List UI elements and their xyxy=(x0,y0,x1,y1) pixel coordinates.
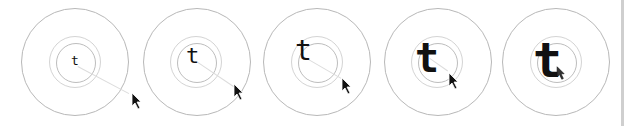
cursor-arrow-icon xyxy=(233,83,245,101)
magnification-sequence: t t t t t xyxy=(0,0,627,126)
edge-divider-bar xyxy=(621,0,624,126)
cursor-arrow-icon xyxy=(556,66,566,80)
cursor-arrow-icon xyxy=(341,77,353,95)
glyph-t: t xyxy=(71,54,79,67)
cursor-arrow-icon xyxy=(448,72,460,90)
glyph-t: t xyxy=(186,45,199,67)
glyph-t: t xyxy=(295,37,312,65)
glyph-t: t xyxy=(415,38,439,78)
cursor-arrow-icon xyxy=(131,92,143,110)
